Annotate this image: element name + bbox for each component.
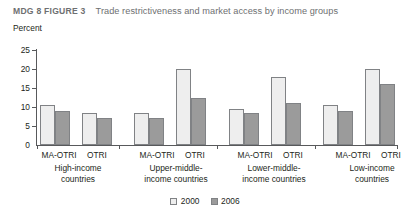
y-tick-25 — [32, 50, 36, 51]
group-label-line-1: Low-income — [349, 163, 394, 173]
group-label-low-income: Low-income countries — [349, 163, 394, 184]
y-tick-15 — [32, 88, 36, 89]
legend-label-2000: 2000 — [181, 196, 200, 206]
bar-lower-middle-ma-otri-2006 — [244, 113, 259, 145]
y-axis-label-5: 5 — [12, 122, 30, 130]
bar-low-income-ma-otri-2000 — [323, 105, 338, 145]
indicator-labels: MA-OTRI OTRI MA-OTRI OTRI MA-OTRI OTRI M… — [37, 150, 398, 162]
group-spacer — [210, 50, 225, 145]
bar-high-income-ma-otri-2006 — [55, 111, 70, 145]
bar-group-low-income — [319, 50, 398, 145]
x-tick-2 — [217, 145, 218, 149]
plot-area — [37, 50, 398, 145]
bar-upper-middle-ma-otri-2000 — [134, 113, 149, 145]
group-label-line-2: income countries — [242, 174, 305, 184]
figure-number: MDG 8 FIGURE 3 — [13, 6, 86, 16]
bar-low-income-otri-2006 — [380, 84, 395, 145]
bar-lower-middle-otri-2000 — [271, 77, 286, 145]
y-tick-5 — [32, 126, 36, 127]
y-tick-20 — [32, 69, 36, 70]
legend-label-2006: 2006 — [221, 196, 240, 206]
group-label-line-1: Upper-middle- — [149, 163, 202, 173]
group-spacer — [116, 50, 131, 145]
bar-pair-ma-otri — [323, 50, 353, 145]
group-label-upper-middle-income: Upper-middle- income countries — [144, 163, 207, 184]
y-axis-unit-label: Percent — [13, 23, 42, 33]
y-axis-label-20: 20 — [12, 65, 30, 73]
indicator-label-upper-middle-ma-otri: MA-OTRI — [139, 150, 174, 160]
bar-pair-ma-otri — [134, 50, 164, 145]
bar-pair-ma-otri — [40, 50, 70, 145]
indicator-label-high-income-ma-otri: MA-OTRI — [41, 150, 76, 160]
bar-group-upper-middle-income — [131, 50, 210, 145]
group-label-high-income: High-income countries — [54, 163, 101, 184]
chart-legend: 2000 2006 — [0, 196, 410, 206]
x-tick-3 — [315, 145, 316, 149]
group-label-line-2: income countries — [144, 174, 207, 184]
figure-header: MDG 8 FIGURE 3 Trade restrictiveness and… — [13, 6, 338, 16]
group-labels: High-income countries Upper-middle- inco… — [37, 163, 398, 195]
x-tick-0 — [37, 145, 38, 149]
y-axis-label-15: 15 — [12, 84, 30, 92]
legend-item-2000: 2000 — [170, 196, 199, 206]
group-spacer — [304, 50, 319, 145]
bar-upper-middle-otri-2000 — [176, 69, 191, 145]
indicator-label-high-income-otri: OTRI — [87, 150, 107, 160]
figure-container: MDG 8 FIGURE 3 Trade restrictiveness and… — [0, 0, 410, 213]
bar-pair-otri — [176, 50, 206, 145]
bar-low-income-otri-2000 — [365, 69, 380, 145]
bar-high-income-otri-2006 — [97, 118, 112, 145]
legend-item-2006: 2006 — [211, 196, 240, 206]
group-label-line-2: countries — [61, 174, 95, 184]
bar-lower-middle-ma-otri-2000 — [229, 109, 244, 145]
legend-swatch-2000 — [170, 198, 177, 205]
bar-high-income-ma-otri-2000 — [40, 105, 55, 145]
bar-pair-otri — [82, 50, 112, 145]
figure-title: Trade restrictiveness and market access … — [96, 6, 338, 16]
x-tick-4 — [397, 145, 398, 149]
y-axis-label-25: 25 — [12, 46, 30, 54]
y-axis-label-0: 0 — [12, 141, 30, 149]
bar-upper-middle-ma-otri-2006 — [149, 118, 164, 145]
bar-low-income-ma-otri-2006 — [338, 111, 353, 145]
bar-pair-otri — [365, 50, 395, 145]
bar-upper-middle-otri-2006 — [191, 98, 206, 146]
x-tick-1 — [119, 145, 120, 149]
group-label-line-2: countries — [355, 174, 389, 184]
bar-group-lower-middle-income — [225, 50, 304, 145]
bar-group-high-income — [37, 50, 116, 145]
bar-high-income-otri-2000 — [82, 113, 97, 145]
y-axis-label-10: 10 — [12, 103, 30, 111]
group-label-line-1: Lower-middle- — [247, 163, 300, 173]
bar-lower-middle-otri-2006 — [286, 103, 301, 145]
group-label-lower-middle-income: Lower-middle- income countries — [242, 163, 305, 184]
indicator-label-low-income-ma-otri: MA-OTRI — [335, 150, 370, 160]
y-tick-10 — [32, 107, 36, 108]
bar-pair-otri — [271, 50, 301, 145]
indicator-label-lower-middle-otri: OTRI — [283, 150, 303, 160]
indicator-label-low-income-otri: OTRI — [381, 150, 401, 160]
indicator-label-lower-middle-ma-otri: MA-OTRI — [237, 150, 272, 160]
legend-swatch-2006 — [211, 198, 218, 205]
group-label-line-1: High-income — [54, 163, 101, 173]
indicator-label-upper-middle-otri: OTRI — [185, 150, 205, 160]
bar-pair-ma-otri — [229, 50, 259, 145]
